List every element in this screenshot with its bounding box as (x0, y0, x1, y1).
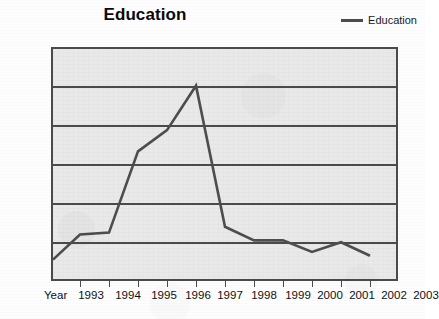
x-tick-label-2002: 2002 (381, 289, 407, 301)
x-tick-9 (341, 281, 342, 287)
x-tick-7 (283, 281, 284, 287)
x-tick-label-1996: 1996 (185, 289, 211, 301)
gridline-20 (53, 203, 396, 205)
x-tick-label-2003: 2003 (413, 289, 439, 301)
x-tick-label-1994: 1994 (115, 289, 141, 301)
x-tick-label-1993: 1993 (78, 289, 104, 301)
x-tick-5 (225, 281, 226, 287)
x-tick-label-2001: 2001 (349, 289, 375, 301)
gridline-60 (53, 47, 396, 49)
x-tick-10 (370, 281, 371, 287)
x-tick-label-1995: 1995 (151, 289, 177, 301)
x-tick-6 (254, 281, 255, 287)
x-tick-3 (167, 281, 168, 287)
gridline-10 (53, 242, 396, 244)
chart-title: Education (0, 5, 290, 25)
x-tick-label-1999: 1999 (285, 289, 311, 301)
gridline-40 (53, 125, 396, 127)
x-tick-0 (80, 281, 81, 287)
x-tick-label-1997: 1997 (217, 289, 243, 301)
x-tick-label-2000: 2000 (317, 289, 343, 301)
legend-line-swatch-education (341, 19, 363, 22)
gridline-50 (53, 86, 396, 88)
plot-area (51, 47, 398, 281)
chart-legend: Education (341, 14, 417, 26)
gridline-30 (53, 164, 396, 166)
x-tick-8 (312, 281, 313, 287)
x-tick-4 (196, 281, 197, 287)
x-tick-label-1998: 1998 (251, 289, 277, 301)
x-tick-2 (138, 281, 139, 287)
x-axis-name: Year (44, 289, 67, 301)
x-tick-1 (109, 281, 110, 287)
legend-label-education: Education (368, 14, 417, 26)
